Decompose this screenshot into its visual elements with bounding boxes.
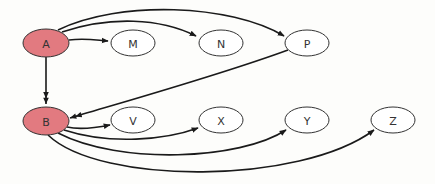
edge-b-to-v <box>67 125 110 128</box>
node-b[interactable]: B <box>23 107 69 135</box>
node-m[interactable]: M <box>111 30 155 56</box>
node-x[interactable]: X <box>199 107 243 133</box>
node-z[interactable]: Z <box>371 107 415 133</box>
node-a[interactable]: A <box>23 29 69 57</box>
node-label: N <box>217 38 225 51</box>
node-label: Z <box>389 115 397 128</box>
nodes-layer: AMNPBVXYZ <box>23 29 415 135</box>
node-label: B <box>42 116 50 129</box>
node-p[interactable]: P <box>285 30 329 56</box>
edge-b-to-z <box>48 130 374 172</box>
node-label: A <box>42 38 50 51</box>
node-y[interactable]: Y <box>285 107 329 133</box>
node-label: Y <box>303 115 311 128</box>
node-label: P <box>304 38 311 51</box>
edge-a-to-m <box>69 39 108 41</box>
node-n[interactable]: N <box>199 30 243 56</box>
node-label: X <box>217 115 225 128</box>
edge-b-to-y <box>58 130 286 155</box>
directed-graph-canvas: AMNPBVXYZ <box>0 0 435 184</box>
node-v[interactable]: V <box>111 107 155 133</box>
node-label: V <box>129 115 137 128</box>
edge-a-to-p <box>58 10 284 36</box>
node-label: M <box>128 38 138 51</box>
edge-p-to-b <box>70 50 288 118</box>
